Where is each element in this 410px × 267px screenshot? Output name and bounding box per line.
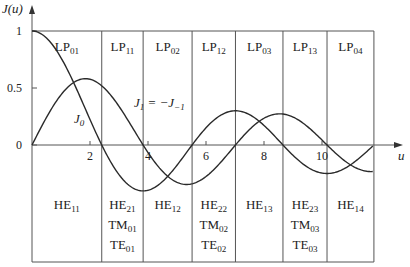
vector-mode-label: HE22 [201, 197, 228, 214]
y-tick-label: 1 [16, 24, 22, 38]
vector-mode-label: TE01 [110, 237, 135, 254]
x-tick-label: 6 [203, 149, 209, 163]
vector-mode-label: TM03 [291, 217, 320, 234]
y-axis-arrow-icon [29, 5, 35, 14]
lp-mode-label: LP12 [202, 39, 227, 56]
vector-mode-label: HE21 [109, 197, 135, 214]
x-tick-label: 10 [316, 149, 328, 163]
lp-mode-label: LP04 [338, 39, 363, 56]
vector-mode-label: TM02 [199, 217, 228, 234]
lp-mode-label: LP01 [55, 39, 79, 56]
bessel-mode-chart: 24681000.51J(u)uJ0J1 = −J−1LP01LP11LP02L… [0, 0, 410, 267]
vector-mode-label: HE13 [246, 197, 273, 214]
lp-mode-label: LP03 [247, 39, 272, 56]
j1-label: J1 = −J−1 [134, 95, 185, 112]
x-tick-label: 8 [261, 149, 267, 163]
x-tick-label: 4 [145, 149, 151, 163]
vector-mode-label: TE02 [201, 237, 226, 254]
x-tick-label: 2 [87, 149, 93, 163]
vector-mode-label: TE03 [292, 237, 317, 254]
vector-mode-label: TM01 [108, 217, 137, 234]
lp-mode-label: LP13 [293, 39, 318, 56]
y-axis-label: J(u) [2, 1, 23, 16]
x-axis-label: u [398, 148, 405, 163]
j0-label: J0 [74, 111, 85, 128]
y-tick-label: 0.5 [7, 81, 22, 95]
lp-mode-label: LP11 [110, 39, 134, 56]
curves [32, 31, 373, 191]
labels: 24681000.51J(u)uJ0J1 = −J−1LP01LP11LP02L… [2, 1, 405, 254]
vector-mode-label: HE12 [154, 197, 181, 214]
vector-mode-label: HE23 [292, 197, 319, 214]
y-tick-label: 0 [16, 138, 22, 152]
vector-mode-label: HE11 [54, 197, 80, 214]
vector-mode-label: HE14 [337, 197, 364, 214]
j0-curve [32, 31, 373, 191]
lp-mode-label: LP02 [155, 39, 180, 56]
